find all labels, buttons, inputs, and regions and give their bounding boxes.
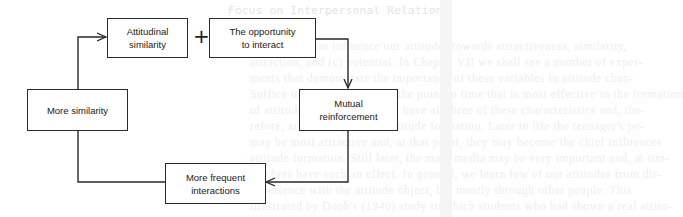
node-label: More frequent [186, 171, 245, 184]
node-label: interactions [186, 184, 245, 197]
node-mutual-reinforcement: Mutual reinforcement [299, 89, 398, 131]
edge-similarity-to-attitudinal [78, 37, 106, 89]
edge-frequent-to-similarity [78, 130, 165, 182]
node-opportunity-to-interact: The opportunity to interact [209, 18, 316, 58]
node-label: similarity [127, 38, 169, 51]
node-attitudinal-similarity: Attitudinal similarity [107, 18, 188, 58]
node-label: Attitudinal [127, 25, 169, 38]
node-label: reinforcement [319, 110, 377, 123]
node-label: Mutual [319, 97, 377, 110]
edge-opportunity-to-mutual [315, 39, 348, 88]
node-more-frequent-interactions: More frequent interactions [165, 163, 266, 204]
edge-mutual-to-frequent [266, 130, 348, 182]
node-label: to interact [229, 38, 295, 51]
plus-operator: + [193, 24, 210, 48]
node-label: More similarity [47, 104, 108, 117]
node-label: The opportunity [229, 25, 295, 38]
node-more-similarity: More similarity [27, 89, 128, 131]
